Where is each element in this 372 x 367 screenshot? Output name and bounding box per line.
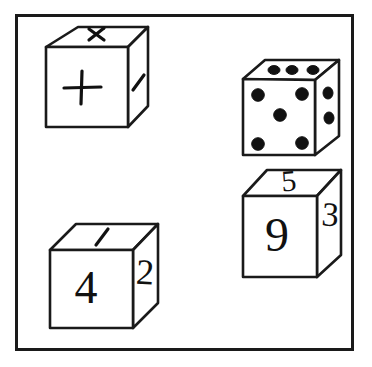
number-cube-593-front-glyph: 9 — [265, 208, 289, 261]
number-cube-593-right-glyph: 3 — [320, 195, 340, 233]
number-cube-142-right-glyph: 2 — [135, 252, 155, 293]
number-cube-142: 4 2 — [50, 224, 158, 328]
number-cube-142-front-glyph: 4 — [75, 262, 98, 313]
operator-cube — [46, 27, 148, 127]
die-cube — [243, 60, 339, 155]
number-cube-593: 5 9 3 — [243, 163, 341, 277]
figure-root: 5 9 3 4 2 — [0, 0, 372, 367]
cubes-illustration: 5 9 3 4 2 — [0, 0, 372, 367]
number-cube-593-top-glyph: 5 — [280, 163, 297, 197]
die-top-pips-3 — [268, 66, 319, 75]
